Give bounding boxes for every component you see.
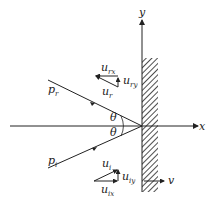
u-rx-label: urx (101, 61, 115, 76)
incident-ray (48, 126, 142, 168)
p-r-label: pr (48, 83, 59, 98)
p-i-label: pi (48, 154, 57, 169)
u-ix-label: uix (101, 183, 114, 198)
u-r-label: ur (102, 85, 113, 100)
u-i-vector (94, 170, 117, 181)
u-ry-label: ury (123, 74, 138, 89)
diagram-canvas: y x θ θ pr pi urx ury ur ui uiy uix v (0, 0, 213, 206)
y-axis-label: y (138, 6, 146, 19)
x-axis-label: x (199, 120, 206, 133)
wall (142, 58, 158, 192)
angle-top-label: θ (110, 111, 117, 124)
angle-bottom-label: θ (110, 126, 117, 139)
reflection-diagram: y x θ θ pr pi urx ury ur ui uiy uix v (0, 0, 213, 206)
v-label: v (168, 174, 175, 187)
u-i-label: ui (102, 157, 111, 172)
u-iy-label: uiy (122, 170, 136, 185)
